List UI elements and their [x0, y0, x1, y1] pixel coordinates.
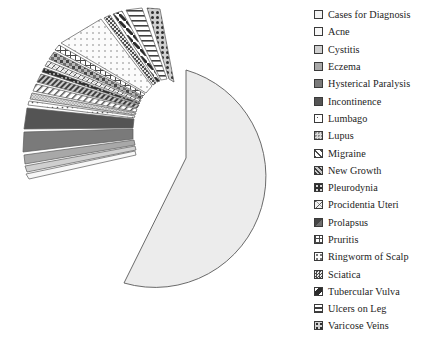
pie-chart-page: Cases for Diagnosis Acne Cystitis Eczema… [0, 0, 438, 344]
legend-item-ulcers-on-leg[interactable]: Ulcers on Leg [314, 300, 438, 317]
legend-label-cases-for-diagnosis: Cases for Diagnosis [328, 9, 410, 20]
legend-item-pleurodynia[interactable]: Pleurodynia [314, 179, 438, 196]
legend-swatch-new-growth [314, 166, 323, 175]
pie-chart-svg [0, 0, 300, 344]
pie-slices [23, 8, 266, 287]
legend-swatch-pruritis [314, 235, 323, 244]
legend-item-varicose-veins[interactable]: Varicose Veins [314, 317, 438, 334]
legend-item-lupus[interactable]: Lupus [314, 127, 438, 144]
chart-legend: Cases for Diagnosis Acne Cystitis Eczema… [314, 6, 438, 338]
legend-item-pruritis[interactable]: Pruritis [314, 231, 438, 248]
legend-swatch-ulcers-on-leg [314, 304, 323, 313]
legend-item-incontinence[interactable]: Incontinence [314, 92, 438, 109]
legend-label-pleurodynia: Pleurodynia [328, 182, 378, 193]
legend-item-prolapsus[interactable]: Prolapsus [314, 214, 438, 231]
legend-item-migraine[interactable]: Migraine [314, 144, 438, 161]
legend-swatch-hysterical-paralysis [314, 79, 323, 88]
legend-label-pruritis: Pruritis [328, 234, 358, 245]
exploded-slices [23, 8, 174, 179]
legend-item-cases-for-diagnosis[interactable]: Cases for Diagnosis [314, 6, 438, 23]
legend-label-lumbago: Lumbago [328, 113, 367, 124]
legend-item-cystitis[interactable]: Cystitis [314, 41, 438, 58]
legend-item-hysterical-paralysis[interactable]: Hysterical Paralysis [314, 75, 438, 92]
legend-label-new-growth: New Growth [328, 165, 381, 176]
legend-label-incontinence: Incontinence [328, 96, 381, 107]
legend-swatch-acne [314, 27, 323, 36]
pie-chart [0, 0, 300, 344]
legend-item-eczema[interactable]: Eczema [314, 58, 438, 75]
legend-item-tubercular-vulva[interactable]: Tubercular Vulva [314, 283, 438, 300]
legend-item-procidentia-uteri[interactable]: Procidentia Uteri [314, 196, 438, 213]
legend-label-hysterical-paralysis: Hysterical Paralysis [328, 78, 410, 89]
legend-label-varicose-veins: Varicose Veins [328, 320, 389, 331]
legend-item-new-growth[interactable]: New Growth [314, 162, 438, 179]
legend-item-sciatica[interactable]: Sciatica [314, 265, 438, 282]
legend-swatch-procidentia-uteri [314, 200, 323, 209]
legend-swatch-varicose-veins [314, 321, 323, 330]
legend-label-tubercular-vulva: Tubercular Vulva [328, 286, 400, 297]
legend-swatch-cystitis [314, 45, 323, 54]
legend-label-procidentia-uteri: Procidentia Uteri [328, 199, 399, 210]
legend-label-acne: Acne [328, 26, 350, 37]
legend-item-ringworm-of-scalp[interactable]: Ringworm of Scalp [314, 248, 438, 265]
legend-label-prolapsus: Prolapsus [328, 217, 368, 228]
slice-cases-for-diagnosis[interactable] [124, 70, 266, 287]
legend-item-lumbago[interactable]: Lumbago [314, 110, 438, 127]
legend-swatch-incontinence [314, 97, 323, 106]
legend-swatch-cases-for-diagnosis [314, 10, 323, 19]
legend-label-cystitis: Cystitis [328, 44, 360, 55]
legend-item-acne[interactable]: Acne [314, 23, 438, 40]
legend-swatch-lumbago [314, 114, 323, 123]
legend-swatch-pleurodynia [314, 183, 323, 192]
legend-swatch-tubercular-vulva [314, 287, 323, 296]
legend-swatch-eczema [314, 62, 323, 71]
legend-swatch-migraine [314, 149, 323, 158]
legend-label-ulcers-on-leg: Ulcers on Leg [328, 303, 386, 314]
legend-label-eczema: Eczema [328, 61, 361, 72]
legend-label-lupus: Lupus [328, 130, 354, 141]
legend-label-sciatica: Sciatica [328, 269, 361, 280]
legend-swatch-prolapsus [314, 218, 323, 227]
legend-swatch-ringworm-of-scalp [314, 252, 323, 261]
legend-swatch-lupus [314, 131, 323, 140]
legend-swatch-sciatica [314, 270, 323, 279]
legend-label-migraine: Migraine [328, 148, 366, 159]
legend-label-ringworm-of-scalp: Ringworm of Scalp [328, 251, 409, 262]
